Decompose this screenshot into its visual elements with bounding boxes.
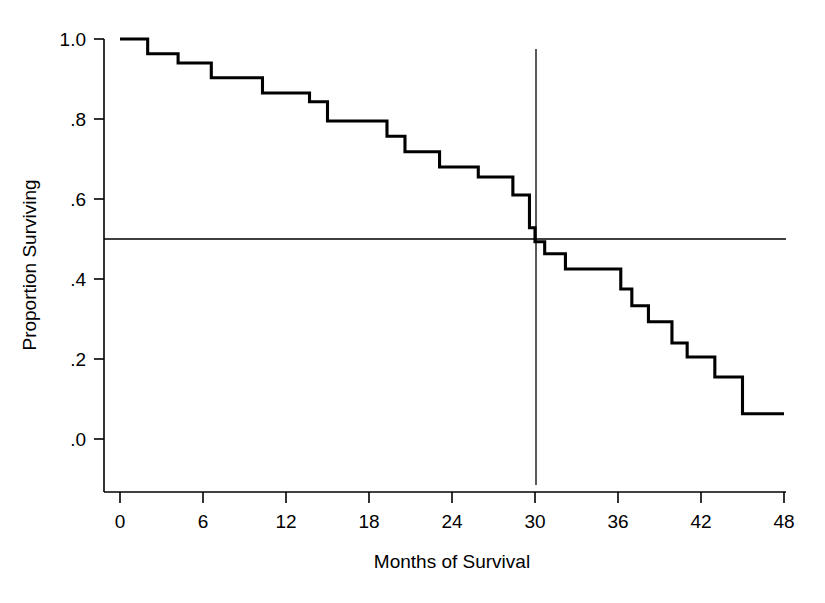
x-tick-marks — [120, 492, 784, 503]
y-axis-title: Proportion Surviving — [19, 179, 40, 350]
y-tick-label-1.0: 1.0 — [60, 29, 86, 50]
x-tick-label-0: 0 — [115, 511, 126, 532]
x-tick-label-42: 42 — [690, 511, 711, 532]
x-tick-labels: 0 6 12 18 24 30 36 42 48 — [115, 511, 795, 532]
y-tick-label-0.6: .6 — [70, 189, 86, 210]
x-tick-label-24: 24 — [441, 511, 463, 532]
x-tick-label-48: 48 — [773, 511, 794, 532]
x-axis-title: Months of Survival — [374, 551, 530, 572]
kaplan-meier-plot: 1.0 .8 .6 .4 .2 .0 0 6 12 18 24 30 — [0, 0, 825, 603]
x-tick-label-12: 12 — [275, 511, 296, 532]
x-tick-label-30: 30 — [524, 511, 545, 532]
survival-curve-figure: 1.0 .8 .6 .4 .2 .0 0 6 12 18 24 30 — [0, 0, 825, 603]
x-tick-label-36: 36 — [607, 511, 628, 532]
x-tick-label-18: 18 — [358, 511, 379, 532]
y-tick-label-0.0: .0 — [70, 429, 86, 450]
y-tick-labels: 1.0 .8 .6 .4 .2 .0 — [60, 29, 87, 450]
survival-step-curve — [120, 39, 784, 414]
x-tick-label-6: 6 — [198, 511, 209, 532]
y-tick-label-0.4: .4 — [70, 269, 86, 290]
y-tick-marks — [94, 39, 104, 439]
y-tick-label-0.2: .2 — [70, 349, 86, 370]
y-tick-label-0.8: .8 — [70, 109, 86, 130]
